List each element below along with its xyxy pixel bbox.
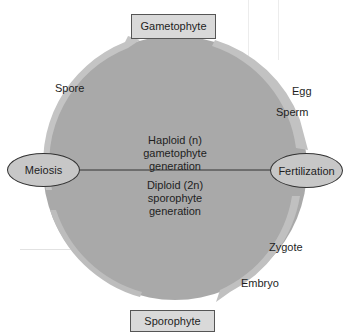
diploid-line3: generation: [110, 205, 240, 218]
haploid-line1: Haploid (n): [110, 134, 240, 147]
diploid-line1: Diploid (2n): [110, 179, 240, 192]
meiosis-node: Meiosis: [7, 153, 80, 187]
sperm-label: Sperm: [276, 106, 308, 119]
egg-label: Egg: [292, 85, 312, 98]
fertilization-node: Fertilization: [270, 153, 343, 188]
diploid-text: Diploid (2n) sporophyte generation: [110, 179, 240, 218]
haploid-line2: gametophyte: [110, 147, 240, 160]
zygote-label: Zygote: [269, 241, 303, 254]
gametophyte-box: Gametophyte: [131, 14, 216, 39]
gametophyte-label: Gametophyte: [140, 20, 206, 32]
meiosis-label: Meiosis: [25, 164, 62, 176]
spore-label: Spore: [55, 82, 84, 95]
sporophyte-label: Sporophyte: [144, 315, 200, 327]
sporophyte-box: Sporophyte: [130, 310, 215, 332]
embryo-label: Embryo: [241, 277, 279, 290]
diploid-line2: sporophyte: [110, 192, 240, 205]
haploid-line3: generation: [110, 160, 240, 173]
haploid-text: Haploid (n) gametophyte generation: [110, 134, 240, 173]
fertilization-label: Fertilization: [278, 165, 334, 177]
